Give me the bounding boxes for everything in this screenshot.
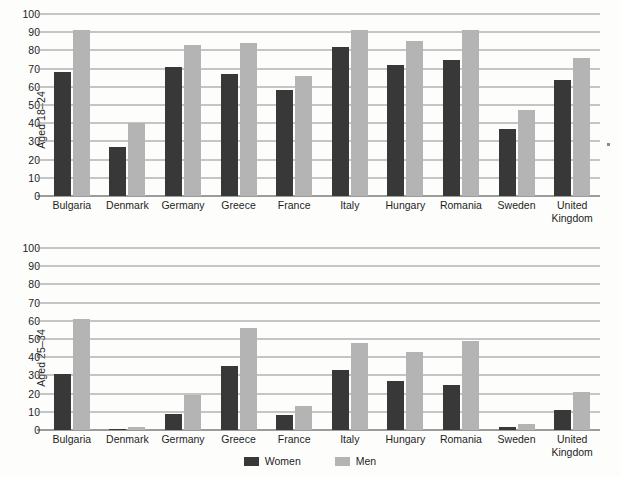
x-tick-label: Greece [211,199,267,224]
bar-group [44,14,100,196]
bar-groups-top [44,14,600,196]
bar-women [276,90,293,196]
y-axis-ticks-top: 0102030405060708090100 [8,14,40,196]
legend-item: Men [335,455,376,467]
plot-area-top: 0102030405060708090100 [44,14,600,196]
bar-women [554,80,571,196]
x-tick-label: Bulgaria [44,199,100,224]
bar-women [443,60,460,197]
bar-group [544,14,600,196]
bar-group [211,14,267,196]
bar-group [44,248,100,430]
bar-women [276,415,293,430]
x-tick-label: Sweden [489,199,545,224]
bar-group [322,14,378,196]
bar-women [332,370,349,430]
chart-panel-aged-18-24: Aged 18–24 0102030405060708090100 Bulgar… [0,4,620,236]
x-tick-label: Romania [433,199,489,224]
bar-group [100,14,156,196]
bar-group [211,248,267,430]
bar-men [406,41,423,196]
bar-group [155,248,211,430]
bar-men [184,45,201,196]
bar-men [73,319,90,430]
bar-women [221,74,238,196]
bar-men [406,352,423,430]
bar-men [573,392,590,430]
bar-women [109,429,126,431]
x-tick-label: Hungary [378,199,434,224]
y-axis-ticks-bottom: 0102030405060708090100 [8,248,40,430]
bar-group [266,248,322,430]
bar-group [266,14,322,196]
chart-panel-aged-25-34: Aged 25–34 0102030405060708090100 Bulgar… [0,238,620,477]
bar-women [109,147,126,196]
bar-men [518,424,535,430]
bar-women [499,129,516,196]
bar-women [165,67,182,196]
bar-women [387,381,404,430]
bar-men [518,110,535,196]
legend-label: Men [356,455,376,467]
bar-group [433,14,489,196]
bar-women [165,414,182,430]
bar-men [573,58,590,196]
bar-group [155,14,211,196]
x-tick-label: UnitedKingdom [544,199,600,224]
x-axis-labels-top: BulgariaDenmarkGermanyGreeceFranceItalyH… [44,199,600,224]
bar-group [100,248,156,430]
bar-group [378,14,434,196]
legend-label: Women [265,455,301,467]
bar-women [443,385,460,431]
bar-men [128,123,145,196]
bar-women [554,410,571,430]
bar-women [387,65,404,196]
legend-swatch-icon [244,457,259,466]
bar-men [462,30,479,196]
legend-item: Women [244,455,301,467]
x-tick-label: France [266,199,322,224]
bar-men [295,76,312,196]
bar-men [73,30,90,196]
bar-men [462,341,479,430]
bar-women [332,47,349,196]
bar-women [54,72,71,196]
bar-men [351,30,368,196]
bar-group [433,248,489,430]
bar-men [295,406,312,430]
chart-page: Aged 18–24 0102030405060708090100 Bulgar… [0,0,620,477]
bar-group [544,248,600,430]
chart-legend: WomenMen [0,455,620,467]
plot-area-bottom: 0102030405060708090100 [44,248,600,430]
legend-swatch-icon [335,457,350,466]
x-tick-label: Denmark [100,199,156,224]
bar-men [128,427,145,430]
bar-women [221,366,238,430]
bar-group [489,248,545,430]
page-speck [607,143,610,146]
x-tick-label: Germany [155,199,211,224]
bar-groups-bottom [44,248,600,430]
bar-women [499,427,516,430]
bar-men [351,343,368,430]
bar-group [489,14,545,196]
bar-men [240,43,257,196]
bar-group [322,248,378,430]
bar-women [54,374,71,430]
bar-men [240,328,257,430]
x-tick-label: Italy [322,199,378,224]
bar-men [184,395,201,430]
bar-group [378,248,434,430]
